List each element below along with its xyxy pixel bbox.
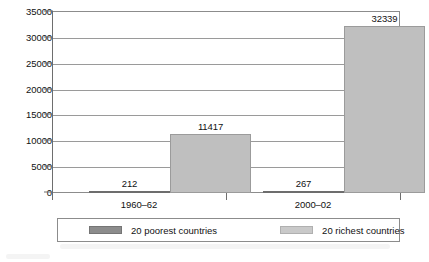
y-axis-tick-mark [44, 36, 53, 37]
bar-value-label: 267 [251, 178, 356, 189]
bar [344, 26, 425, 193]
bar-value-label: 32339 [332, 13, 429, 24]
y-axis-labels: 05000100001500020000250003000035000 [0, 0, 52, 262]
bar-value-label: 212 [77, 178, 182, 189]
chart-legend: 20 poorest countries20 richest countries [57, 218, 400, 242]
bar [89, 191, 170, 193]
bars-layer: 2121141726732339 [53, 12, 399, 193]
legend-label: 20 richest countries [322, 225, 404, 236]
legend-label: 20 poorest countries [131, 225, 217, 236]
bar [170, 134, 251, 193]
bar-value-label: 11417 [158, 121, 263, 132]
x-axis-category-label: 1960–62 [52, 199, 226, 210]
y-axis-tick-mark [44, 88, 53, 89]
legend-swatch-richest [280, 226, 313, 234]
x-axis-category-label: 2000–02 [226, 199, 400, 210]
y-axis-tick-mark [44, 140, 53, 141]
y-axis-tick-mark [44, 62, 53, 63]
bar [263, 191, 344, 193]
y-axis-tick-mark [44, 11, 53, 12]
scan-artifact [60, 244, 390, 249]
y-axis-tick-mark [44, 166, 53, 167]
legend-entry: 20 richest countries [280, 225, 404, 236]
legend-entry: 20 poorest countries [89, 225, 217, 236]
legend-swatch-poorest [89, 226, 122, 234]
y-axis-tick-mark [44, 114, 53, 115]
x-axis-tick-mark [400, 193, 401, 200]
